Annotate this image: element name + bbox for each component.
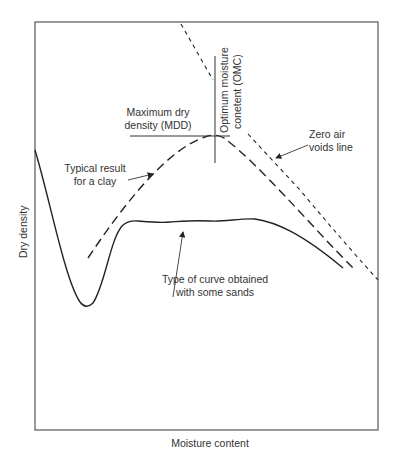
zero-air-voids-line-upper: [181, 24, 213, 80]
mdd-label-line1: Maximum dry: [118, 106, 198, 119]
omc-label-line1: Optimum moisture: [218, 47, 231, 133]
sand-label-line2: with some sands: [155, 286, 275, 299]
x-axis-label: Moisture content: [150, 437, 270, 450]
sand-label: Type of curve obtained with some sands: [155, 273, 275, 298]
y-axis-label: Dry density: [17, 205, 30, 258]
plot-frame: [35, 22, 378, 430]
zero-air-voids-line-lower: [248, 134, 378, 280]
omc-label-line2: conetent (OMC): [231, 47, 244, 133]
sand-label-line1: Type of curve obtained: [155, 273, 275, 286]
mdd-label-line2: density (MDD): [118, 119, 198, 132]
compaction-diagram: [0, 0, 396, 457]
zav-arrow-icon: [276, 145, 308, 158]
clay-label: Typical result for a clay: [60, 162, 130, 187]
zav-label: Zero air voids line: [309, 128, 353, 153]
clay-label-line2: for a clay: [60, 175, 130, 188]
zav-label-line2: voids line: [309, 141, 353, 154]
omc-label: Optimum moisture conetent (OMC): [218, 47, 243, 133]
clay-compaction-curve: [88, 135, 355, 270]
clay-label-line1: Typical result: [60, 162, 130, 175]
zav-label-line1: Zero air: [309, 128, 353, 141]
mdd-label: Maximum dry density (MDD): [118, 106, 198, 131]
